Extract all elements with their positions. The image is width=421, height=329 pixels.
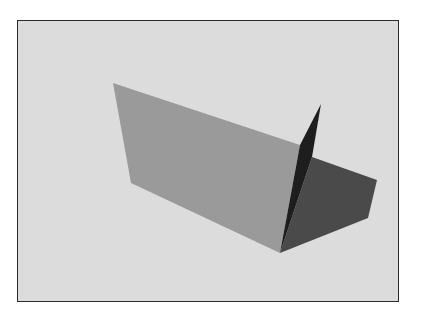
lit-plane <box>113 83 300 253</box>
3d-scene <box>0 0 421 329</box>
